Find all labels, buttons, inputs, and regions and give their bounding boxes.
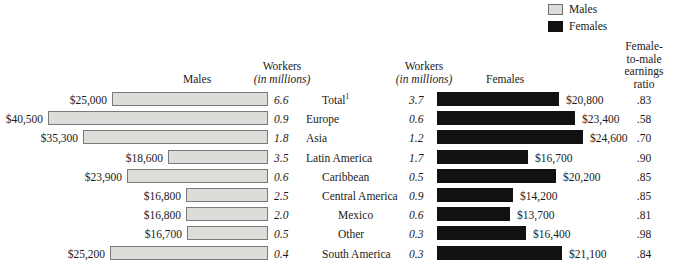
category-label: Asia bbox=[306, 131, 327, 145]
male-workers-value: 3.5 bbox=[274, 151, 298, 165]
female-bar bbox=[437, 246, 562, 260]
female-bar bbox=[437, 92, 559, 106]
category-label: Total1 bbox=[322, 93, 349, 107]
male-bar bbox=[186, 207, 268, 221]
chart-row: $25,0006.6Total13.7$20,800.83 bbox=[0, 91, 685, 110]
male-workers-value: 2.5 bbox=[274, 189, 298, 203]
female-bar bbox=[437, 188, 513, 202]
female-workers-value: 0.6 bbox=[409, 112, 431, 126]
male-bar bbox=[112, 92, 268, 106]
male-bar bbox=[186, 188, 268, 202]
male-workers-value: 1.8 bbox=[274, 131, 298, 145]
female-to-male-ratio-value: .84 bbox=[607, 247, 681, 261]
female-to-male-ratio-value: .70 bbox=[607, 131, 681, 145]
female-earnings-label: $13,700 bbox=[517, 208, 554, 222]
female-workers-value: 0.5 bbox=[409, 170, 431, 184]
male-workers-value: 0.6 bbox=[274, 170, 298, 184]
male-bar bbox=[187, 226, 268, 240]
category-label: Latin America bbox=[306, 151, 372, 165]
male-earnings-label: $18,600 bbox=[88, 151, 168, 165]
male-earnings-label: $25,200 bbox=[30, 247, 110, 261]
column-header-males: Males bbox=[183, 73, 211, 86]
female-to-male-ratio-value: .90 bbox=[607, 151, 681, 165]
female-workers-value: 0.6 bbox=[409, 208, 431, 222]
male-workers-value: 2.0 bbox=[274, 208, 298, 222]
female-workers-value: 0.3 bbox=[409, 247, 431, 261]
chart-row: $16,8002.0Mexico0.6$13,700.81 bbox=[0, 206, 685, 225]
female-bar bbox=[437, 111, 575, 125]
ratio-header-line-4: ratio bbox=[607, 78, 681, 91]
female-workers-value: 0.3 bbox=[409, 227, 431, 241]
ratio-header-line-3: earnings bbox=[607, 65, 681, 78]
female-workers-value: 0.9 bbox=[409, 189, 431, 203]
female-to-male-ratio-value: .81 bbox=[607, 208, 681, 222]
column-header-workers-females-line2: (in millions) bbox=[395, 73, 453, 86]
male-earnings-label: $25,000 bbox=[32, 93, 112, 107]
legend-item-females: Females bbox=[548, 19, 668, 33]
column-header-workers-males-line1: Workers bbox=[253, 60, 311, 73]
male-earnings-label: $40,500 bbox=[0, 112, 48, 126]
chart-row: $16,8002.5Central America0.9$14,200.85 bbox=[0, 187, 685, 206]
female-earnings-label: $16,700 bbox=[535, 151, 572, 165]
male-earnings-label: $35,300 bbox=[3, 131, 83, 145]
category-label: South America bbox=[322, 247, 391, 261]
female-earnings-label: $20,800 bbox=[566, 93, 603, 107]
male-earnings-label: $16,800 bbox=[106, 208, 186, 222]
female-earnings-label: $21,100 bbox=[569, 247, 606, 261]
female-bar bbox=[437, 226, 526, 240]
male-workers-value: 0.4 bbox=[274, 247, 298, 261]
female-earnings-label: $14,200 bbox=[520, 189, 557, 203]
female-workers-value: 3.7 bbox=[409, 93, 431, 107]
female-bar bbox=[437, 130, 583, 144]
male-earnings-label: $16,800 bbox=[106, 189, 186, 203]
chart-row: $16,7000.5Other0.3$16,400.98 bbox=[0, 225, 685, 244]
category-label: Mexico bbox=[338, 208, 373, 222]
column-header-females: Females bbox=[486, 73, 524, 86]
chart-row: $18,6003.5Latin America1.7$16,700.90 bbox=[0, 149, 685, 168]
category-footnote-marker: 1 bbox=[345, 92, 349, 101]
male-workers-value: 6.6 bbox=[274, 93, 298, 107]
male-bar bbox=[127, 169, 268, 183]
column-header-workers-males-line2: (in millions) bbox=[253, 73, 311, 86]
category-label: Caribbean bbox=[322, 170, 369, 184]
male-bar bbox=[48, 111, 268, 125]
chart-row: $25,2000.4South America0.3$21,100.84 bbox=[0, 245, 685, 264]
male-earnings-label: $23,900 bbox=[47, 170, 127, 184]
category-label: Other bbox=[338, 227, 364, 241]
female-workers-value: 1.2 bbox=[409, 131, 431, 145]
female-workers-value: 1.7 bbox=[409, 151, 431, 165]
chart-rows: $25,0006.6Total13.7$20,800.83$40,5000.9E… bbox=[0, 91, 685, 264]
legend-label-females: Females bbox=[569, 20, 607, 32]
female-to-male-ratio-value: .85 bbox=[607, 189, 681, 203]
female-bar bbox=[437, 169, 556, 183]
chart-row: $23,9000.6Caribbean0.5$20,200.85 bbox=[0, 168, 685, 187]
chart-row: $35,3001.8Asia1.2$24,600.70 bbox=[0, 129, 685, 148]
male-bar bbox=[110, 246, 268, 260]
legend-label-males: Males bbox=[569, 3, 597, 15]
female-to-male-ratio-value: .98 bbox=[607, 227, 681, 241]
chart-row: $40,5000.9Europe0.6$23,400.58 bbox=[0, 110, 685, 129]
male-bar bbox=[168, 150, 268, 164]
female-earnings-label: $16,400 bbox=[533, 227, 570, 241]
legend-item-males: Males bbox=[548, 2, 668, 16]
male-workers-value: 0.9 bbox=[274, 112, 298, 126]
female-to-male-ratio-value: .83 bbox=[607, 93, 681, 107]
female-earnings-label: $20,200 bbox=[563, 170, 600, 184]
female-bar bbox=[437, 207, 510, 221]
category-label: Europe bbox=[306, 112, 339, 126]
category-label: Central America bbox=[322, 189, 398, 203]
male-bar bbox=[83, 130, 268, 144]
female-bar bbox=[437, 150, 528, 164]
column-header-workers-females-line1: Workers bbox=[395, 60, 453, 73]
earnings-comparison-chart: Males Females Males Workers (in millions… bbox=[0, 0, 685, 273]
male-earnings-label: $16,700 bbox=[107, 227, 187, 241]
female-to-male-ratio-value: .85 bbox=[607, 170, 681, 184]
males-swatch-icon bbox=[548, 4, 563, 15]
ratio-header-line-2: to-male bbox=[607, 53, 681, 66]
male-workers-value: 0.5 bbox=[274, 227, 298, 241]
chart-legend: Males Females bbox=[548, 2, 668, 36]
column-header-ratio: Female- to-male earnings ratio bbox=[607, 40, 681, 90]
females-swatch-icon bbox=[548, 21, 563, 32]
ratio-header-line-1: Female- bbox=[607, 40, 681, 53]
female-to-male-ratio-value: .58 bbox=[607, 112, 681, 126]
